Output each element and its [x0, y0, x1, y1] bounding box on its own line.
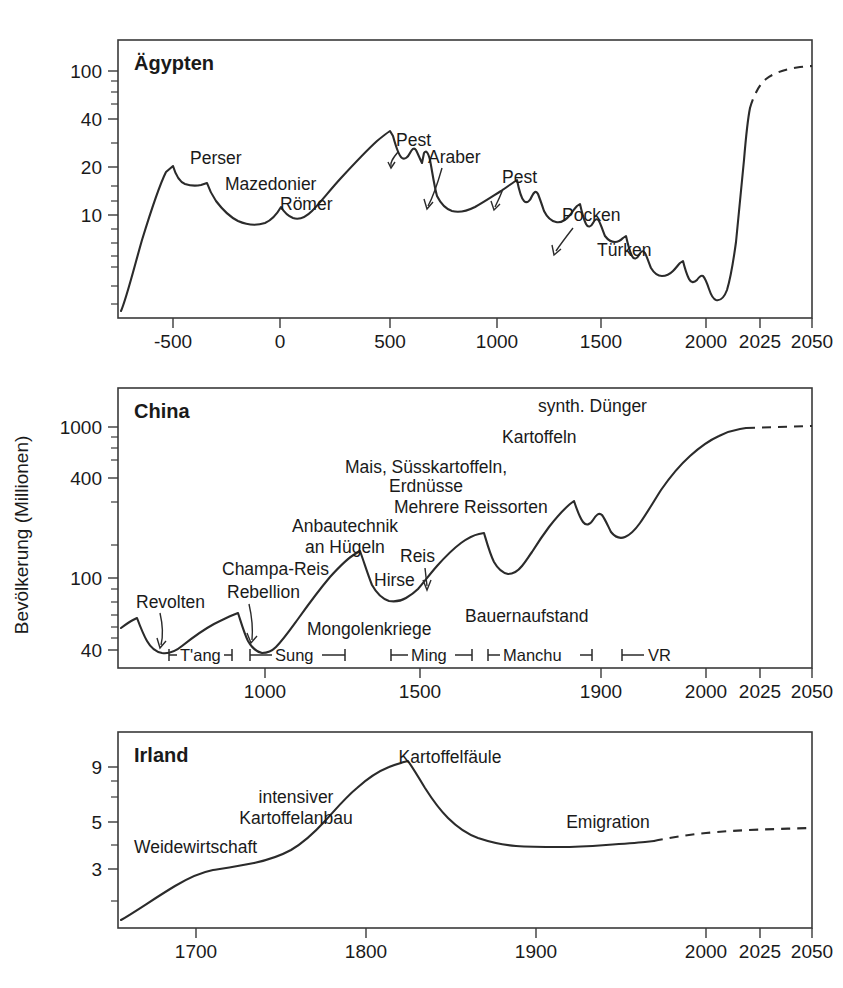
egypt-ytick-label-40: 40	[81, 109, 102, 130]
panel-egypt: Ägypten 100 40	[70, 40, 833, 352]
china-era-label-ming: Ming	[411, 646, 447, 664]
china-annotation-mehrere-reissorten: Mehrere Reissorten	[394, 497, 548, 517]
y-axis-title: Bevölkerung (Millionen)	[11, 436, 32, 635]
china-era-label-tang: T'ang	[180, 646, 221, 664]
figure-root: Bevölkerung (Millionen) Ägypten	[0, 0, 843, 988]
china-xtick-label-1900: 1900	[580, 681, 622, 702]
china-x-ticks	[265, 668, 812, 678]
china-annotation-bauernaufstand: Bauernaufstand	[465, 606, 589, 626]
panel-ireland: Irland 9 5 3	[91, 732, 833, 962]
ireland-annotation-kartoffelfaeule: Kartoffelfäule	[399, 747, 502, 767]
ireland-xtick-label-1700: 1700	[175, 941, 217, 962]
china-annotation-erdnuesse: Erdnüsse	[389, 476, 463, 496]
china-annotation-hirse: Hirse	[374, 570, 415, 590]
china-era-brackets: T'ang Sung Ming Manchu	[169, 646, 671, 664]
china-xtick-label-1500: 1500	[399, 681, 441, 702]
egypt-annotation-tuerken: Türken	[597, 240, 651, 260]
egypt-xtick-label-minus500: -500	[154, 331, 192, 352]
china-annotation-synth-duenger: synth. Dünger	[538, 396, 647, 416]
egypt-annotation-mazedonier: Mazedonier	[225, 174, 317, 194]
ireland-annotation-weidewirtschaft: Weidewirtschaft	[134, 837, 257, 857]
panel-china: China 1000 400 100 40	[60, 388, 833, 702]
egypt-xtick-label-1000: 1000	[476, 331, 518, 352]
china-annotation-kartoffeln: Kartoffeln	[502, 427, 577, 447]
china-panel-title: China	[134, 400, 190, 422]
egypt-annotation-araber: Araber	[428, 147, 481, 167]
egypt-annotation-roemer: Römer	[280, 194, 333, 214]
ireland-xtick-label-2025: 2025	[739, 941, 781, 962]
china-annotation-mais-suesskartoffeln: Mais, Süsskartoffeln,	[345, 457, 507, 477]
china-ytick-label-400: 400	[70, 468, 102, 489]
egypt-annotation-pocken: Pocken	[562, 205, 620, 225]
china-xtick-label-1000: 1000	[244, 681, 286, 702]
egypt-annotations: Perser Mazedonier Römer Pest Araber Pest…	[190, 130, 651, 260]
egypt-annotation-perser: Perser	[190, 148, 242, 168]
ireland-y-ticks	[108, 767, 118, 901]
china-era-label-manchu: Manchu	[503, 646, 562, 664]
china-era-manchu: Manchu	[488, 646, 592, 664]
china-xtick-label-2050: 2050	[791, 681, 833, 702]
ireland-ytick-label-9: 9	[91, 757, 102, 778]
egypt-xtick-label-0: 0	[275, 331, 286, 352]
china-ytick-label-40: 40	[81, 640, 102, 661]
china-annotation-champa-reis: Champa-Reis	[222, 559, 329, 579]
egypt-ytick-label-100: 100	[70, 61, 102, 82]
china-era-ming: Ming	[391, 646, 472, 664]
china-xtick-label-2025: 2025	[739, 681, 781, 702]
china-era-label-vr: VR	[648, 646, 671, 664]
ireland-xtick-label-2000: 2000	[685, 941, 727, 962]
egypt-xtick-label-500: 500	[374, 331, 406, 352]
egypt-annotation-pest-1: Pest	[396, 130, 431, 150]
ireland-projection-curve	[654, 828, 812, 841]
china-annotations: Revolten Champa-Reis Rebellion Anbautech…	[136, 396, 647, 639]
egypt-population-curve	[121, 108, 750, 311]
china-ytick-label-1000: 1000	[60, 417, 102, 438]
ireland-xtick-label-1900: 1900	[515, 941, 557, 962]
ireland-ytick-label-3: 3	[91, 859, 102, 880]
population-history-figure: Bevölkerung (Millionen) Ägypten	[0, 0, 843, 988]
ireland-xtick-label-2050: 2050	[791, 941, 833, 962]
egypt-xtick-label-2050: 2050	[791, 331, 833, 352]
ireland-annotation-emigration: Emigration	[566, 812, 650, 832]
egypt-panel-title: Ägypten	[134, 52, 214, 74]
china-projection-curve	[746, 426, 812, 428]
egypt-projection-curve	[750, 66, 812, 108]
china-era-vr: VR	[622, 646, 671, 664]
ireland-panel-title: Irland	[134, 744, 188, 766]
china-era-sung: Sung	[250, 646, 345, 664]
china-annotation-rebellion: Rebellion	[227, 582, 300, 602]
ireland-ytick-label-5: 5	[91, 812, 102, 833]
ireland-annotations: Weidewirtschaft intensiver Kartoffelanba…	[134, 747, 650, 857]
china-annotation-mongolenkriege: Mongolenkriege	[307, 619, 432, 639]
china-annotation-reis: Reis	[400, 546, 435, 566]
china-era-label-sung: Sung	[275, 646, 314, 664]
egypt-plot-frame	[118, 40, 812, 318]
ireland-annotation-kartoffelanbau: Kartoffelanbau	[239, 808, 353, 828]
egypt-xtick-label-2025: 2025	[739, 331, 781, 352]
egypt-y-ticks	[108, 71, 118, 304]
ireland-xtick-label-1800: 1800	[345, 941, 387, 962]
china-y-ticks	[108, 427, 118, 650]
egypt-annotation-pest-2: Pest	[502, 167, 537, 187]
china-annotation-revolten: Revolten	[136, 592, 205, 612]
china-annotation-anbautechnik: Anbautechnik	[292, 516, 398, 536]
ireland-x-ticks	[196, 928, 812, 938]
egypt-ytick-label-10: 10	[81, 205, 102, 226]
ireland-annotation-intensiver: intensiver	[259, 787, 334, 807]
china-plot-frame	[118, 388, 812, 668]
egypt-x-ticks	[173, 318, 812, 328]
egypt-xtick-label-1500: 1500	[580, 331, 622, 352]
china-xtick-label-2000: 2000	[685, 681, 727, 702]
china-annotation-an-huegeln: an Hügeln	[305, 537, 385, 557]
egypt-xtick-label-2000: 2000	[685, 331, 727, 352]
china-ytick-label-100: 100	[70, 568, 102, 589]
egypt-ytick-label-20: 20	[81, 157, 102, 178]
